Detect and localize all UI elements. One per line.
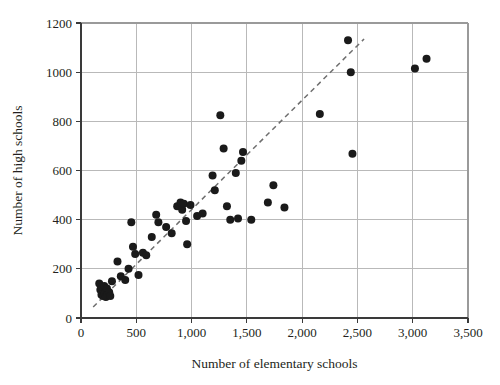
data-point xyxy=(344,36,352,44)
data-point xyxy=(152,211,160,219)
data-point xyxy=(220,144,228,152)
y-tick-label: 800 xyxy=(53,114,73,129)
y-tick-label: 1000 xyxy=(46,65,72,80)
x-tick-label: 500 xyxy=(127,325,147,340)
data-point xyxy=(211,186,219,194)
data-point xyxy=(148,233,156,241)
data-point xyxy=(135,271,143,279)
x-tick-label: 2,000 xyxy=(288,325,317,340)
scatter-chart: 02004006008001000120005001,0001,5002,000… xyxy=(0,0,500,385)
y-tick-label: 0 xyxy=(66,311,73,326)
data-point xyxy=(347,68,355,76)
data-point xyxy=(411,64,419,72)
data-point xyxy=(131,250,139,258)
data-point xyxy=(280,203,288,211)
data-point xyxy=(223,202,231,210)
data-point xyxy=(216,111,224,119)
x-tick-label: 3,500 xyxy=(453,325,482,340)
data-point xyxy=(264,198,272,206)
data-point xyxy=(162,223,170,231)
data-point xyxy=(199,210,207,218)
data-point xyxy=(209,171,217,179)
data-point xyxy=(237,157,245,165)
x-tick-label: 0 xyxy=(78,325,85,340)
data-point xyxy=(142,251,150,259)
y-tick-label: 600 xyxy=(53,163,73,178)
trend-line-dashed xyxy=(93,39,364,307)
x-tick-label: 1,000 xyxy=(177,325,206,340)
data-point xyxy=(168,229,176,237)
data-point xyxy=(269,181,277,189)
data-point xyxy=(183,240,191,248)
data-point xyxy=(232,169,240,177)
y-axis-title: Number of high schools xyxy=(10,105,25,235)
data-point xyxy=(348,150,356,158)
x-axis-title: Number of elementary schools xyxy=(191,356,357,371)
data-point xyxy=(182,217,190,225)
y-tick-label: 1200 xyxy=(46,16,72,31)
data-point xyxy=(316,110,324,118)
y-tick-label: 200 xyxy=(53,261,73,276)
data-point xyxy=(154,218,162,226)
y-tick-label: 400 xyxy=(53,212,73,227)
data-point xyxy=(186,201,194,209)
x-tick-label: 1,500 xyxy=(232,325,261,340)
data-point xyxy=(125,265,133,273)
data-point xyxy=(226,216,234,224)
data-point xyxy=(234,214,242,222)
data-point xyxy=(239,148,247,156)
data-point xyxy=(129,243,137,251)
plot-area: 02004006008001000120005001,0001,5002,000… xyxy=(0,0,500,385)
data-point xyxy=(127,218,135,226)
x-tick-label: 3,000 xyxy=(398,325,427,340)
x-tick-label: 2,500 xyxy=(343,325,372,340)
data-point xyxy=(121,276,129,284)
data-point xyxy=(423,55,431,63)
data-point xyxy=(180,200,188,208)
data-point xyxy=(106,292,114,300)
data-point xyxy=(113,257,121,265)
data-point xyxy=(108,277,116,285)
data-point xyxy=(247,216,255,224)
